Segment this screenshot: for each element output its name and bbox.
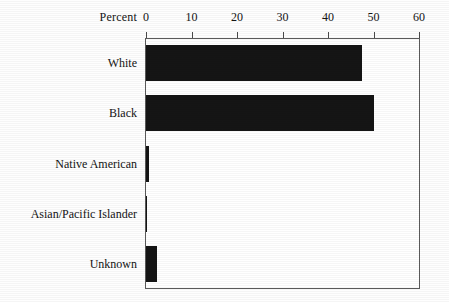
category-label-black: Black — [0, 106, 137, 120]
bars-layer — [146, 38, 420, 289]
x-tick-label-60: 60 — [413, 10, 425, 25]
y-axis-category-labels: WhiteBlackNative AmericanAsian/Pacific I… — [0, 38, 137, 289]
bar-native-american — [146, 146, 149, 182]
x-tick-label-10: 10 — [186, 10, 198, 25]
category-label-white: White — [0, 56, 137, 70]
x-tick-label-30: 30 — [277, 10, 289, 25]
x-tick-label-20: 20 — [231, 10, 243, 25]
bar-unknown — [146, 246, 157, 282]
category-label-native-american: Native American — [0, 157, 137, 171]
bar-chart-screenshot: Percent 0102030405060 WhiteBlackNative A… — [0, 0, 449, 302]
category-label-asian-pacific-islander: Asian/Pacific Islander — [0, 207, 137, 221]
x-tick-label-50: 50 — [368, 10, 380, 25]
category-label-unknown: Unknown — [0, 257, 137, 271]
bar-white — [146, 45, 362, 81]
x-tick-label-40: 40 — [322, 10, 334, 25]
x-axis-tick-labels: 0102030405060 — [0, 10, 449, 26]
x-tick-label-0: 0 — [143, 10, 149, 25]
bar-asian-pacific-islander — [146, 196, 147, 232]
bar-black — [146, 95, 374, 131]
